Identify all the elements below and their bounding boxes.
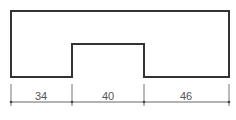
dimension-label-notch: 40 xyxy=(102,90,114,102)
part-outline xyxy=(11,11,229,77)
dimension-label-left: 34 xyxy=(35,90,47,102)
dimension-label-right: 46 xyxy=(180,90,192,102)
dimension-drawing: 34 40 46 xyxy=(0,0,236,120)
